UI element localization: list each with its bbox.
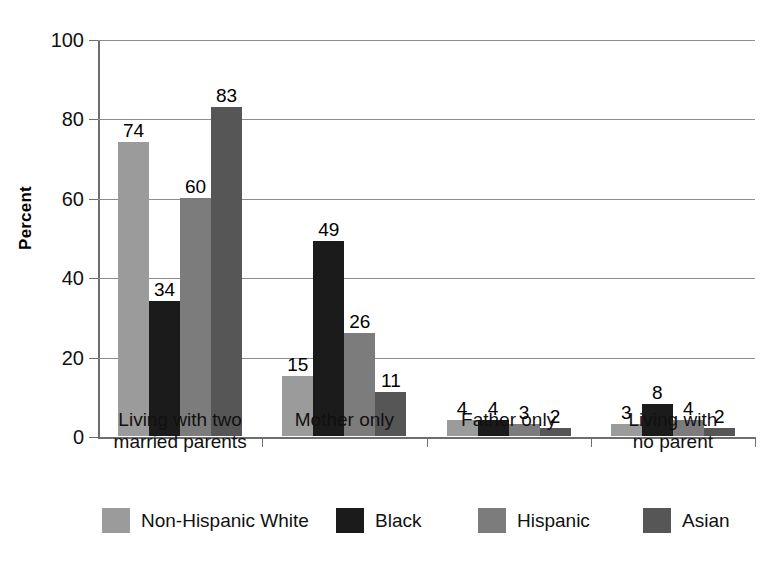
y-tick-mark xyxy=(89,40,98,41)
y-tick-label: 60 xyxy=(62,187,84,210)
y-axis-line xyxy=(98,40,100,438)
legend-label: Non-Hispanic White xyxy=(141,511,309,530)
bar: 60 xyxy=(180,198,211,436)
x-tick-mark xyxy=(755,437,756,447)
chart-legend: Non-Hispanic WhiteBlackHispanicAsian xyxy=(98,508,758,548)
legend-item[interactable]: Non-Hispanic White xyxy=(102,508,309,533)
x-axis-category-label-line: married parents xyxy=(98,431,262,453)
y-tick-mark xyxy=(89,358,98,359)
y-tick-mark xyxy=(89,119,98,120)
bar-value-label: 11 xyxy=(381,371,401,390)
legend-label: Hispanic xyxy=(517,511,590,530)
x-tick-mark xyxy=(427,437,428,447)
legend-item[interactable]: Hispanic xyxy=(478,508,590,533)
legend-swatch xyxy=(478,508,506,533)
x-axis-category-label-line: Living with two xyxy=(98,409,262,431)
y-axis-title: Percent xyxy=(16,148,36,288)
x-axis-category-label-line: Father only xyxy=(427,409,591,431)
legend-label: Asian xyxy=(682,511,730,530)
y-tick-label: 100 xyxy=(51,29,84,52)
gridline xyxy=(98,119,755,120)
x-axis-category-label: Mother only xyxy=(262,409,426,431)
x-axis-category-label: Father only xyxy=(427,409,591,431)
legend-swatch xyxy=(102,508,130,533)
y-tick-label: 80 xyxy=(62,108,84,131)
plot-area: 020406080100 743460831549261144323842 xyxy=(98,40,755,437)
bar-value-label: 60 xyxy=(185,177,206,196)
bar: 83 xyxy=(211,107,242,437)
bar-value-label: 8 xyxy=(652,383,663,402)
x-tick-mark xyxy=(262,437,263,447)
y-tick-mark xyxy=(89,278,98,279)
x-axis-category-label-line: Living with xyxy=(591,409,755,431)
gridline xyxy=(98,40,755,41)
legend-label: Black xyxy=(375,511,421,530)
legend-item[interactable]: Asian xyxy=(643,508,730,533)
bar-value-label: 49 xyxy=(318,220,339,239)
x-axis-category-label-line: Mother only xyxy=(262,409,426,431)
y-tick-label: 40 xyxy=(62,267,84,290)
bar-value-label: 83 xyxy=(216,86,237,105)
bar: 49 xyxy=(313,241,344,436)
x-axis-category-label: Living with twomarried parents xyxy=(98,409,262,454)
bar-value-label: 34 xyxy=(154,280,175,299)
bar-chart: Percent 020406080100 7434608315492611443… xyxy=(0,0,784,570)
x-axis-category-label-line: no parent xyxy=(591,431,755,453)
legend-swatch xyxy=(336,508,364,533)
y-tick-mark xyxy=(89,437,98,438)
x-axis-category-label: Living withno parent xyxy=(591,409,755,454)
y-tick-label: 0 xyxy=(73,426,84,449)
bar-value-label: 26 xyxy=(349,312,370,331)
legend-swatch xyxy=(643,508,671,533)
y-tick-mark xyxy=(89,199,98,200)
y-tick-label: 20 xyxy=(62,346,84,369)
legend-item[interactable]: Black xyxy=(336,508,421,533)
bar: 74 xyxy=(118,142,149,436)
bar-value-label: 15 xyxy=(287,355,308,374)
bar-value-label: 74 xyxy=(123,121,144,140)
